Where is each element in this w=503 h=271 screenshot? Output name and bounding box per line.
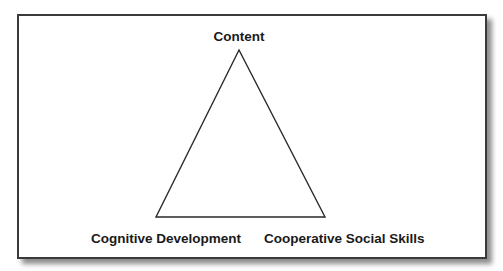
vertex-label-cooperative-social-skills: Cooperative Social Skills <box>264 232 425 246</box>
vertex-label-cognitive-development: Cognitive Development <box>91 232 241 246</box>
triangle-shape <box>156 50 325 217</box>
vertex-label-content: Content <box>214 30 265 44</box>
